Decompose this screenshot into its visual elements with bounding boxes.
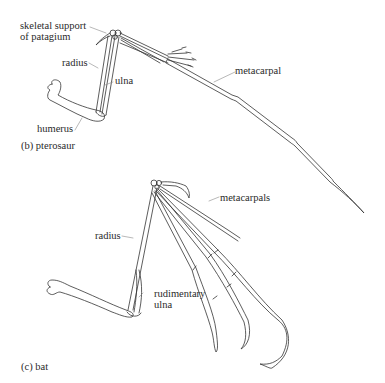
label-pterosaur-metacarpal: metacarpal — [235, 65, 281, 76]
bat-digit-4 — [154, 190, 250, 349]
pterosaur-humerus — [48, 80, 105, 121]
label-bat-metacarpals: metacarpals — [220, 192, 270, 203]
label-pterosaur-ulna: ulna — [115, 75, 133, 86]
label-bat-radius: radius — [95, 230, 121, 241]
bat-digit-3 — [156, 189, 289, 368]
bat-humerus — [47, 280, 133, 317]
label-skeletal-support: skeletal support of patagium — [20, 20, 86, 42]
pterosaur-metacarpal — [120, 33, 168, 63]
label-pterosaur-radius: radius — [62, 57, 88, 68]
label-pterosaur-humerus: humerus — [37, 123, 73, 134]
wing-skeleton-diagram — [0, 0, 385, 383]
label-bat-rudimentary-ulna: rudimentary ulna — [154, 288, 205, 310]
caption-pterosaur: (b) pterosaur — [21, 140, 75, 151]
bat-wing-skeleton — [47, 180, 289, 368]
caption-bat: (c) bat — [21, 361, 48, 372]
bat-radius — [128, 186, 157, 310]
pterosaur-wing-skeleton — [48, 30, 364, 213]
pterosaur-wing-finger — [166, 59, 364, 213]
bat-digit-5 — [152, 191, 218, 352]
